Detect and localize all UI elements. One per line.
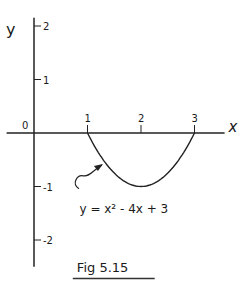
x-tick-label: 3 — [192, 113, 198, 124]
x-axis-label: x — [228, 118, 238, 136]
y-tick-label: -2 — [43, 235, 53, 246]
chart: y x 0 123 21-1-2 y = x² - 4x + 3 Fig 5.1… — [0, 0, 238, 296]
y-axis-label: y — [6, 20, 15, 39]
y-tick-label: 2 — [43, 21, 49, 32]
y-tick-label: 1 — [43, 75, 49, 86]
equation-annotation: y = x² - 4x + 3 — [79, 202, 168, 216]
x-tick-label: 1 — [85, 113, 91, 124]
y-tick-label: -1 — [43, 182, 53, 193]
figure-caption: Fig 5.15 — [77, 260, 128, 275]
origin-label: 0 — [22, 120, 28, 131]
series-curve — [88, 133, 195, 187]
x-tick-label: 2 — [138, 113, 144, 124]
